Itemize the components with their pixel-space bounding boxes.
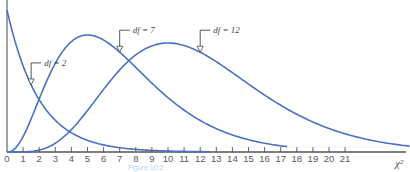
curve-df-12 — [7, 43, 410, 152]
curve-df-2 — [7, 10, 210, 152]
x-tick-label: 4 — [69, 153, 74, 164]
annotation-leader — [120, 30, 130, 47]
x-tick-label: 5 — [85, 153, 90, 164]
annotation-df-12: df = 12 — [197, 25, 240, 52]
x-tick-label: 20 — [324, 153, 335, 164]
x-tick-label: 8 — [133, 153, 138, 164]
annotation-leader — [200, 30, 210, 47]
annotation-label: df = 7 — [133, 25, 156, 35]
x-tick-label: 6 — [101, 153, 106, 164]
x-tick-label: 19 — [308, 153, 319, 164]
x-tick-label: 10 — [163, 153, 174, 164]
x-tick-label: 2 — [37, 153, 42, 164]
x-tick-label: 16 — [259, 153, 270, 164]
annotation-df-7: df = 7 — [117, 25, 156, 52]
x-tick-label: 17 — [275, 153, 286, 164]
x-tick-label: 7 — [117, 153, 122, 164]
x-tick-label: 0 — [4, 153, 9, 164]
x-tick-label: 12 — [195, 153, 206, 164]
x-tick-label: 15 — [243, 153, 254, 164]
curves — [7, 10, 410, 152]
annotation-leader — [31, 63, 41, 80]
x-tick-label: 13 — [211, 153, 222, 164]
figure-caption: Figure 10.2 — [128, 164, 164, 172]
annotation-label: df = 12 — [213, 25, 240, 35]
x-tick-label: 11 — [179, 153, 189, 164]
x-axis-label: χ² — [394, 157, 404, 169]
x-ticks: 0123456789101112131415161718192021 — [4, 147, 350, 164]
chi-square-chart: 0123456789101112131415161718192021 df = … — [0, 0, 410, 172]
x-tick-label: 18 — [292, 153, 303, 164]
x-tick-label: 21 — [340, 153, 351, 164]
x-tick-label: 9 — [149, 153, 154, 164]
curve-df-7 — [7, 35, 287, 152]
x-tick-label: 3 — [53, 153, 58, 164]
x-tick-label: 1 — [20, 153, 25, 164]
x-tick-label: 14 — [227, 153, 238, 164]
annotation-label: df = 2 — [44, 58, 67, 68]
